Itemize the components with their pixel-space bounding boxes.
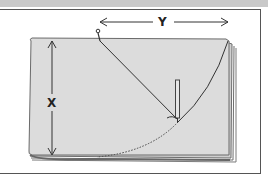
y-label: Y xyxy=(157,15,167,29)
diagram-canvas: Y X xyxy=(0,0,268,182)
paper-sheet xyxy=(29,38,229,155)
x-label: X xyxy=(47,96,57,110)
